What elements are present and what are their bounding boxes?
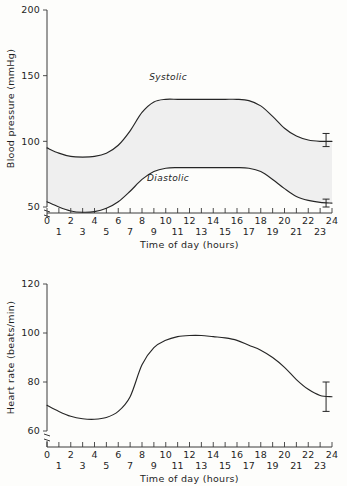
x-tick-label-even: 6 [115, 215, 121, 226]
x-tick-label-even: 8 [139, 449, 145, 460]
x-tick-label-odd: 7 [127, 226, 133, 237]
x-tick-label-odd: 13 [195, 226, 208, 237]
x-tick-label-even: 16 [231, 449, 244, 460]
x-tick-label-even: 20 [278, 449, 291, 460]
x-tick-label-odd: 21 [290, 460, 303, 471]
x-tick-label-even: 14 [207, 215, 220, 226]
x-tick-label-even: 2 [68, 215, 74, 226]
heart-rate-chart: 6080100120Heart rate (beats/min)01234567… [0, 255, 347, 486]
annotation-systolic: Systolic [149, 72, 187, 82]
x-tick-label-odd: 19 [266, 226, 279, 237]
x-tick-label-odd: 5 [103, 460, 109, 471]
x-tick-label-even: 8 [139, 215, 145, 226]
x-tick-label-odd: 17 [243, 460, 256, 471]
chart-panel-blood-pressure: 50100150200Blood pressure (mmHg)01234567… [0, 0, 347, 255]
x-axis-title: Time of day (hours) [139, 239, 239, 250]
x-tick-label-odd: 7 [127, 460, 133, 471]
y-tick-label: 150 [21, 70, 40, 81]
chart-panel-heart-rate: 6080100120Heart rate (beats/min)01234567… [0, 255, 347, 486]
x-tick-label-even: 24 [326, 215, 339, 226]
x-tick-label-odd: 15 [219, 226, 232, 237]
annotation-diastolic: Diastolic [147, 173, 189, 183]
curve-heart-rate [47, 335, 332, 419]
x-tick-label-odd: 11 [171, 460, 184, 471]
x-tick-label-even: 12 [183, 449, 196, 460]
x-tick-label-odd: 3 [80, 460, 86, 471]
x-tick-label-odd: 9 [151, 226, 157, 237]
x-tick-label-odd: 5 [103, 226, 109, 237]
x-tick-label-even: 16 [231, 215, 244, 226]
x-tick-label-even: 10 [160, 215, 173, 226]
x-tick-label-even: 0 [44, 449, 50, 460]
y-tick-label: 60 [28, 425, 41, 436]
blood-pressure-chart: 50100150200Blood pressure (mmHg)01234567… [0, 0, 347, 255]
x-tick-label-even: 4 [91, 215, 97, 226]
y-axis-title: Heart rate (beats/min) [5, 301, 16, 414]
band-systolic-diastolic [47, 99, 332, 212]
x-tick-label-even: 4 [91, 449, 97, 460]
x-tick-label-odd: 23 [314, 460, 327, 471]
x-tick-label-odd: 3 [80, 226, 86, 237]
x-tick-label-odd: 9 [151, 460, 157, 471]
y-tick-label: 120 [21, 278, 40, 289]
x-tick-label-odd: 17 [243, 226, 256, 237]
x-tick-label-odd: 15 [219, 460, 232, 471]
x-tick-label-odd: 21 [290, 226, 303, 237]
x-tick-label-even: 10 [160, 449, 173, 460]
y-tick-label: 100 [21, 136, 40, 147]
x-tick-label-even: 22 [302, 215, 315, 226]
blood-pressure-plot: 50100150200Blood pressure (mmHg)01234567… [5, 4, 338, 250]
figure-container: 50100150200Blood pressure (mmHg)01234567… [0, 0, 347, 486]
y-tick-label: 100 [21, 327, 40, 338]
heart-rate-plot: 6080100120Heart rate (beats/min)01234567… [5, 278, 338, 484]
x-tick-label-odd: 1 [56, 460, 62, 471]
y-axis-title: Blood pressure (mmHg) [5, 49, 16, 168]
x-tick-label-even: 2 [68, 449, 74, 460]
x-tick-label-even: 22 [302, 449, 315, 460]
x-tick-label-even: 20 [278, 215, 291, 226]
x-tick-label-even: 18 [255, 215, 268, 226]
y-tick-label: 50 [28, 201, 41, 212]
x-tick-label-even: 6 [115, 449, 121, 460]
y-axis-break-mark [44, 434, 50, 441]
x-tick-label-even: 12 [183, 215, 196, 226]
y-tick-label: 200 [21, 4, 40, 15]
x-tick-label-even: 18 [255, 449, 268, 460]
x-axis-title: Time of day (hours) [139, 473, 239, 484]
x-tick-label-odd: 1 [56, 226, 62, 237]
x-tick-label-even: 0 [44, 215, 50, 226]
x-tick-label-odd: 11 [171, 226, 184, 237]
x-tick-label-even: 14 [207, 449, 220, 460]
x-tick-label-odd: 23 [314, 226, 327, 237]
x-tick-label-odd: 19 [266, 460, 279, 471]
x-tick-label-even: 24 [326, 449, 339, 460]
x-tick-label-odd: 13 [195, 460, 208, 471]
y-tick-label: 80 [28, 376, 41, 387]
